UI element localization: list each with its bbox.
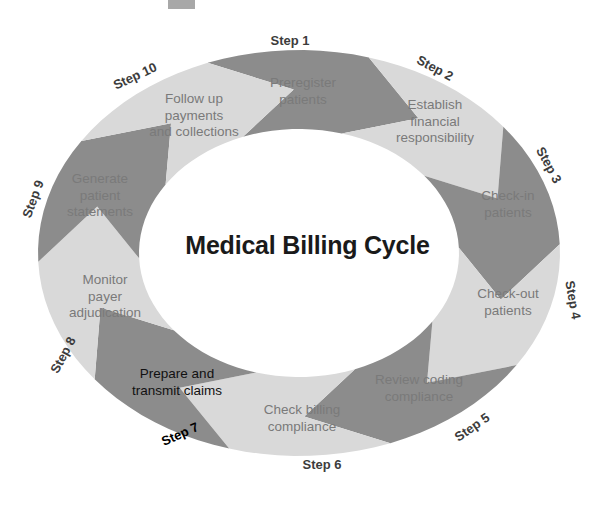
- step-1-number-label: Step 1: [270, 33, 309, 48]
- page-title: Medical Billing Cycle: [0, 231, 615, 260]
- step-6-number-label: Step 6: [302, 457, 341, 472]
- medical-billing-cycle-diagram: Medical Billing Cycle Preregister patien…: [0, 0, 615, 514]
